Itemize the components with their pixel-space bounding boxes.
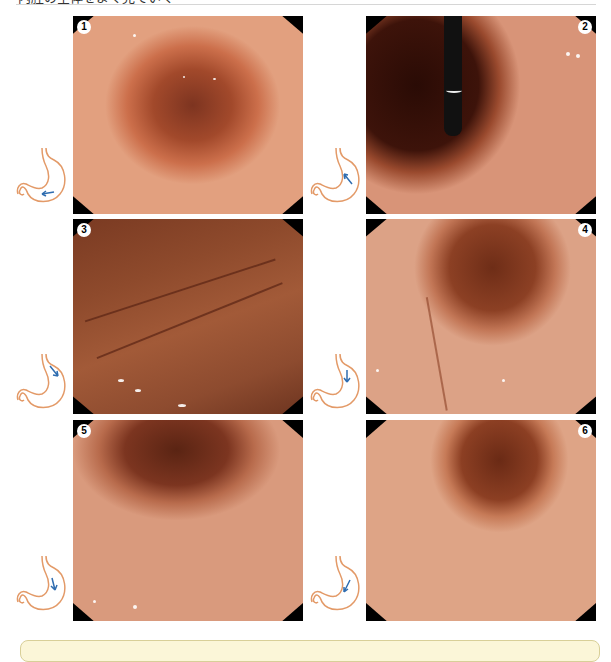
direction-arrow-icon	[344, 580, 350, 592]
heading-divider	[16, 4, 596, 5]
endoscopic-image	[366, 16, 596, 214]
direction-arrow-icon	[344, 174, 352, 184]
stomach-outline-icon	[16, 144, 68, 206]
stomach-outline-icon	[310, 552, 362, 614]
stomach-outline-icon	[16, 350, 68, 412]
endoscopic-image	[73, 420, 303, 621]
stomach-outline-icon	[16, 552, 68, 614]
endoscopy-panel-5: 5	[73, 420, 303, 621]
panel-number-badge: 3	[77, 223, 91, 237]
endoscopic-image	[73, 16, 303, 214]
endoscopy-panel-1: 1	[73, 16, 303, 214]
stomach-outline-icon	[310, 144, 362, 206]
endoscopy-panel-4: 4	[366, 219, 596, 414]
panel-number-badge: 2	[578, 20, 592, 34]
panel-number-badge: 1	[77, 20, 91, 34]
endoscopic-image	[366, 420, 596, 621]
endoscopy-panel-2: 2	[366, 16, 596, 214]
endoscopy-panel-6: 6	[366, 420, 596, 621]
direction-arrow-icon	[51, 578, 57, 590]
endoscopy-panel-3: 3	[73, 219, 303, 414]
panel-number-badge: 5	[77, 424, 91, 438]
panel-number-badge: 4	[578, 223, 592, 237]
stomach-outline-icon	[310, 350, 362, 412]
direction-arrow-icon	[344, 370, 350, 382]
note-callout-box	[20, 640, 600, 662]
panel-number-badge: 6	[578, 424, 592, 438]
